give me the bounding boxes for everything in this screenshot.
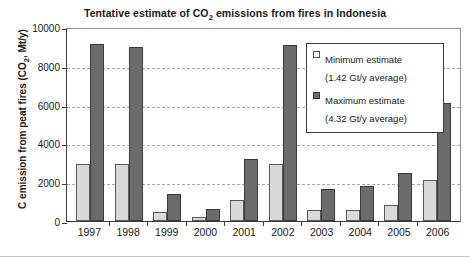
- chart-title: Tentative estimate of CO2 emissions from…: [0, 7, 470, 22]
- bar-minimum: [307, 210, 321, 221]
- x-tick-label: 2003: [302, 226, 341, 238]
- bar-group: [71, 29, 110, 221]
- legend-sublabel-minimum: (1.42 Gt/y average): [325, 72, 407, 83]
- bar-maximum: [167, 194, 181, 221]
- bar-group: [110, 29, 149, 221]
- bar-group: [148, 29, 187, 221]
- x-tick-label: 1998: [109, 226, 148, 238]
- legend-label-minimum: Minimum estimate: [325, 54, 402, 65]
- x-tick-label: 2004: [341, 226, 380, 238]
- y-tick-label: 6000: [38, 100, 60, 111]
- bar-maximum: [283, 45, 297, 221]
- chart-legend: Minimum estimate (1.42 Gt/y average) Max…: [306, 43, 444, 133]
- x-tick-label: 2001: [225, 226, 264, 238]
- bar-maximum: [398, 173, 412, 221]
- x-axis-tick-labels: 1997199819992000200120022003200420052006: [66, 226, 461, 238]
- chart-figure: Tentative estimate of CO2 emissions from…: [0, 0, 470, 257]
- legend-sublabel-maximum: (4.32 Gt/y average): [325, 113, 407, 124]
- bar-minimum: [384, 205, 398, 221]
- x-tick-label: 1997: [70, 226, 109, 238]
- x-tick-label: 1999: [147, 226, 186, 238]
- bar-group: [264, 29, 303, 221]
- legend-item-minimum: Minimum estimate (1.42 Gt/y average): [313, 49, 437, 85]
- x-tick-label: 2002: [264, 226, 303, 238]
- legend-swatch-minimum-icon: [313, 51, 320, 58]
- bar-minimum: [346, 210, 360, 221]
- bar-minimum: [423, 180, 437, 221]
- legend-label-minimum-wrap: Minimum estimate (1.42 Gt/y average): [325, 49, 407, 85]
- legend-swatch-maximum-icon: [313, 92, 320, 99]
- chart-title-prefix: Tentative estimate of CO: [84, 7, 209, 19]
- bar-minimum: [230, 200, 244, 221]
- y-tick-label: 8000: [38, 61, 60, 72]
- x-tick-label: 2005: [380, 226, 419, 238]
- bar-group: [187, 29, 226, 221]
- bar-maximum: [129, 47, 143, 221]
- bar-maximum: [244, 159, 258, 221]
- y-axis-tick-labels: 0200040006000800010000: [22, 22, 60, 228]
- bar-group: [225, 29, 264, 221]
- y-tick-label: 0: [54, 217, 60, 228]
- bar-minimum: [115, 164, 129, 221]
- bar-maximum: [321, 189, 335, 221]
- bar-minimum: [153, 212, 167, 221]
- bar-maximum: [360, 186, 374, 221]
- y-tick-mark: [62, 223, 67, 224]
- y-tick-label: 10000: [32, 23, 60, 34]
- x-tick-label: 2000: [186, 226, 225, 238]
- y-tick-label: 4000: [38, 139, 60, 150]
- bar-minimum: [76, 164, 90, 221]
- x-tick-label: 2006: [418, 226, 457, 238]
- legend-item-maximum: Maximum estimate (4.32 Gt/y average): [313, 90, 437, 126]
- legend-label-maximum-wrap: Maximum estimate (4.32 Gt/y average): [325, 90, 407, 126]
- y-tick-label: 2000: [38, 178, 60, 189]
- bar-minimum: [269, 164, 283, 221]
- legend-label-maximum: Maximum estimate: [325, 95, 405, 106]
- chart-title-suffix: emissions from fires in Indonesia: [213, 7, 386, 19]
- bar-minimum: [192, 217, 206, 221]
- bar-maximum: [206, 209, 220, 221]
- bar-maximum: [90, 44, 104, 221]
